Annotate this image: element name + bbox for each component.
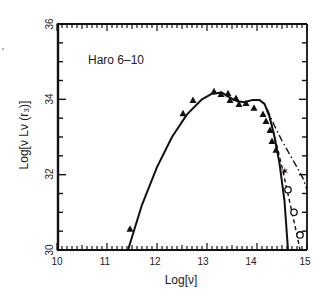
- x-tick-label-13: 13: [197, 256, 209, 267]
- y-tick-label-30: 30: [44, 244, 55, 256]
- triangle-marker: [233, 95, 240, 102]
- x-tick-label-14: 14: [245, 256, 257, 267]
- object-annotation: Haro 6–10: [88, 53, 144, 67]
- triangle-marker: [225, 90, 232, 97]
- open-circle-marker: [297, 232, 303, 238]
- y-tick-labels: 30 32 34 36: [44, 18, 55, 256]
- data-markers: ✶: [127, 88, 304, 238]
- y-tick-label-34: 34: [44, 93, 55, 105]
- open-circle-marker: [291, 209, 297, 215]
- curve-dash-dot: [267, 109, 307, 190]
- x-tick-label-11: 11: [100, 256, 111, 267]
- open-circle-marker: [285, 187, 291, 193]
- triangle-marker: [263, 118, 270, 125]
- x-tick-label-15: 15: [299, 256, 311, 267]
- y-tick-label-32: 32: [44, 168, 55, 180]
- triangle-marker: [211, 88, 218, 95]
- x-tick-labels: 10 11 12 13 14 15: [51, 256, 311, 267]
- triangle-marker: [127, 225, 134, 232]
- triangle-marker: [251, 104, 258, 111]
- triangle-marker: [260, 110, 267, 117]
- y-axis-title: Log[ν Lν (r₃)]: [17, 101, 31, 170]
- triangle-marker: [190, 96, 197, 103]
- triangle-marker: [273, 146, 280, 153]
- star-marker: ✶: [280, 165, 289, 177]
- sed-chart: 10 11 12 13 14 15 30 32 34 36 Log[ν] Log…: [0, 0, 326, 301]
- triangle-marker: [180, 110, 187, 117]
- x-axis-title: Log[ν]: [165, 273, 198, 287]
- x-tick-label-12: 12: [149, 256, 161, 267]
- x-tick-label-10: 10: [51, 256, 63, 267]
- y-tick-label-36: 36: [44, 18, 55, 30]
